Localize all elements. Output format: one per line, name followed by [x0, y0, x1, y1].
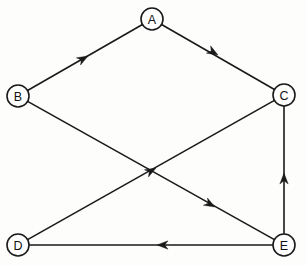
- edge-e-to-c: [280, 106, 288, 234]
- node-e[interactable]: E: [273, 234, 295, 256]
- node-c[interactable]: C: [273, 84, 295, 106]
- graph-canvas: ABCDE: [0, 0, 307, 266]
- edge-a-to-c: [162, 24, 275, 89]
- node-d[interactable]: D: [7, 234, 29, 256]
- node-label: D: [13, 239, 22, 253]
- arrowhead-icon: [203, 198, 215, 207]
- edge-b-to-a: [28, 24, 143, 90]
- edge-e-to-d: [29, 241, 273, 249]
- nodes-layer: ABCDE: [7, 8, 295, 256]
- node-label: C: [279, 89, 288, 103]
- directed-graph-figure: ABCDE: [0, 0, 307, 266]
- node-b[interactable]: B: [7, 85, 29, 107]
- node-a[interactable]: A: [141, 8, 163, 30]
- edges-layer: [28, 24, 289, 249]
- node-label: E: [280, 239, 288, 253]
- node-label: A: [148, 13, 157, 27]
- edge-line: [162, 24, 275, 89]
- node-label: B: [14, 90, 22, 104]
